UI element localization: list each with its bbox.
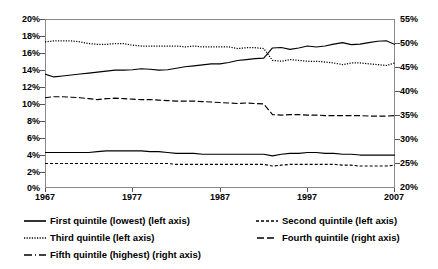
plot-lines xyxy=(45,19,395,188)
series-line xyxy=(45,164,395,167)
legend-item-first-quintile: First quintile (lowest) (left axis) xyxy=(24,216,256,226)
y-axis-tick-label: 8% xyxy=(0,117,40,126)
legend-label: Second quintile (left axis) xyxy=(282,216,397,226)
series-line xyxy=(45,41,395,77)
y-axis-tick-label: 14% xyxy=(0,66,40,75)
y2-axis-tick-label: 40% xyxy=(400,87,438,96)
chart-legend: First quintile (lowest) (left axis) Seco… xyxy=(24,212,424,263)
legend-item-fifth-quintile: Fifth quintile (highest) (right axis) xyxy=(24,250,256,260)
legend-item-third-quintile: Third quintile (left axis) xyxy=(24,233,256,243)
y2-axis-tick-label: 35% xyxy=(400,111,438,120)
y2-axis-tick-label: 55% xyxy=(400,15,438,24)
x-axis-tick-label: 1997 xyxy=(284,192,330,202)
y2-axis-tick-label: 50% xyxy=(400,39,438,48)
series-line xyxy=(45,151,395,156)
y2-axis-tick-label: 25% xyxy=(400,159,438,168)
y2-axis-tick-label: 20% xyxy=(400,183,438,192)
series-line xyxy=(45,97,395,116)
legend-item-fourth-quintile: Fourth quintile (right axis) xyxy=(256,233,438,243)
y2-axis-tick-label: 45% xyxy=(400,63,438,72)
y-axis-tick-label: 12% xyxy=(0,83,40,92)
legend-swatch-dotted-icon xyxy=(24,234,46,242)
y-axis-tick-label: 16% xyxy=(0,49,40,58)
y-axis-tick-label: 6% xyxy=(0,134,40,143)
legend-swatch-solid-icon xyxy=(24,217,46,225)
x-axis-tick-label: 1977 xyxy=(109,192,155,202)
legend-swatch-longdash-icon xyxy=(256,234,278,242)
legend-label: Fifth quintile (highest) (right axis) xyxy=(50,250,201,260)
series-line xyxy=(45,41,395,66)
x-axis-tick-label: 2007 xyxy=(371,192,417,202)
legend-label: Fourth quintile (right axis) xyxy=(282,233,400,243)
legend-item-second-quintile: Second quintile (left axis) xyxy=(256,216,438,226)
y-axis-tick-label: 20% xyxy=(0,15,40,24)
y-axis-tick-label: 4% xyxy=(0,151,40,160)
x-axis-tick-label: 1987 xyxy=(197,192,243,202)
y-axis-tick-label: 10% xyxy=(0,100,40,109)
legend-label: Third quintile (left axis) xyxy=(50,233,155,243)
x-axis-tick-label: 1967 xyxy=(22,192,68,202)
y2-axis-tick-label: 30% xyxy=(400,135,438,144)
y-axis-tick-label: 18% xyxy=(0,32,40,41)
legend-swatch-longdash-dot-icon xyxy=(24,251,46,259)
y-axis-tick-label: 2% xyxy=(0,168,40,177)
legend-label: First quintile (lowest) (left axis) xyxy=(50,216,190,226)
chart-container: 20% 18% 16% 14% 12% 10% 8% 6% 4% 2% 0% 5… xyxy=(0,0,438,269)
legend-swatch-dashed-icon xyxy=(256,217,278,225)
